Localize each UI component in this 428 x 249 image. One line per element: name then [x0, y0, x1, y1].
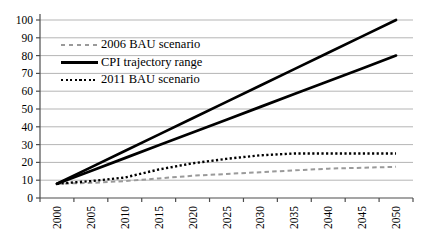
legend-marker-dotted-line: [61, 79, 98, 82]
svg-text:70: 70: [22, 67, 34, 79]
legend-label-2006-bau: 2006 BAU scenario: [98, 37, 200, 52]
legend: 2006 BAU scenario CPI trajectory range 2…: [61, 36, 202, 89]
svg-text:90: 90: [22, 32, 34, 44]
svg-text:2030: 2030: [254, 206, 266, 229]
svg-text:60: 60: [22, 85, 34, 97]
legend-label-cpi-range: CPI trajectory range: [98, 55, 202, 70]
svg-text:20: 20: [22, 156, 34, 168]
svg-text:40: 40: [22, 121, 34, 133]
svg-text:10: 10: [22, 174, 34, 186]
svg-text:2050: 2050: [390, 206, 402, 229]
line-chart: 0102030405060708090100200020052010201520…: [0, 0, 428, 249]
svg-text:2010: 2010: [119, 206, 131, 229]
svg-text:2005: 2005: [85, 206, 97, 229]
svg-text:30: 30: [22, 139, 34, 151]
legend-item-2006-bau: 2006 BAU scenario: [61, 36, 202, 54]
legend-item-cpi-range: CPI trajectory range: [61, 54, 202, 72]
svg-text:2045: 2045: [356, 206, 368, 229]
legend-marker-solid-line: [61, 61, 98, 65]
svg-text:2000: 2000: [51, 206, 63, 229]
svg-text:2040: 2040: [322, 206, 334, 229]
legend-label-2011-bau: 2011 BAU scenario: [98, 72, 200, 87]
svg-text:80: 80: [22, 50, 34, 62]
svg-text:2020: 2020: [187, 206, 199, 229]
svg-text:2015: 2015: [153, 206, 165, 229]
legend-item-2011-bau: 2011 BAU scenario: [61, 71, 202, 89]
svg-text:2035: 2035: [288, 206, 300, 229]
legend-marker-dashed-line: [61, 44, 98, 46]
svg-text:50: 50: [22, 103, 34, 115]
svg-text:2025: 2025: [221, 206, 233, 229]
svg-text:100: 100: [16, 14, 34, 26]
svg-text:0: 0: [27, 192, 33, 204]
